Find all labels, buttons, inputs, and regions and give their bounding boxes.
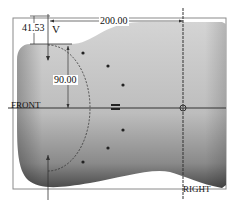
equal-constraint-icon[interactable] [111,104,120,106]
dimension-arc-height[interactable]: 90.00 [53,75,78,85]
datum-label-right: RIGHT [183,185,211,194]
dimension-top-offset[interactable]: 41.53 [21,23,46,33]
dimension-width[interactable]: 200.00 [99,16,129,26]
datum-label-v: V [52,25,60,34]
datum-label-front: FRONT [11,101,41,110]
